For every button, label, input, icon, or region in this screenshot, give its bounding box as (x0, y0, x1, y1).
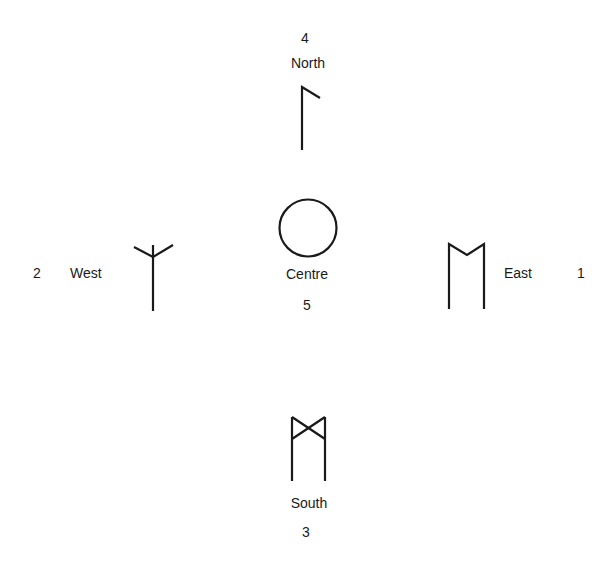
rune-direction-diagram: 4 North 2 West Centre 5 East 1 South 3 (0, 0, 616, 587)
east-number: 1 (577, 265, 585, 281)
west-label: West (70, 265, 102, 281)
north-label: North (291, 55, 325, 71)
east-label: East (504, 265, 532, 281)
centre-circle-icon (280, 200, 337, 257)
north-number: 4 (301, 30, 309, 46)
south-label: South (291, 495, 328, 511)
south-rune-icon (292, 417, 325, 481)
centre-number: 5 (303, 297, 311, 313)
east-rune-icon (449, 244, 484, 309)
centre-label: Centre (286, 266, 328, 282)
south-number: 3 (302, 524, 310, 540)
north-rune-icon (302, 87, 320, 150)
west-number: 2 (33, 265, 41, 281)
west-rune-icon (134, 245, 173, 311)
